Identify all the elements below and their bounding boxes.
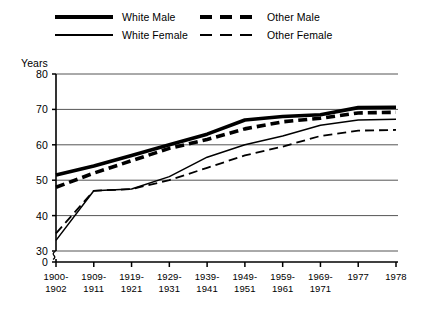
life-expectancy-chart: White Male Other Male White Female Other… (0, 0, 423, 323)
y-tick-label: 80 (22, 68, 48, 80)
y-tick-label-zero: 0 (22, 256, 48, 268)
y-tick-label: 60 (22, 139, 48, 151)
axis-break-icon (53, 252, 55, 260)
x-tick-label: 1978 (374, 271, 418, 283)
x-tick-label-line2: 1971 (298, 283, 342, 295)
series-line-other-female (56, 130, 396, 233)
x-tick-label-line1: 1978 (374, 271, 418, 283)
y-tick-label: 40 (22, 210, 48, 222)
y-tick-label: 70 (22, 103, 48, 115)
data-series-group (56, 107, 396, 240)
y-tick-label: 50 (22, 174, 48, 186)
axis-break-squiggle (53, 252, 55, 260)
plot-area: 8070605040300 1900-19021909-19111919-192… (0, 0, 423, 323)
series-line-white-male (56, 107, 396, 175)
series-line-other-male (56, 112, 396, 187)
axis-lines (52, 74, 398, 262)
